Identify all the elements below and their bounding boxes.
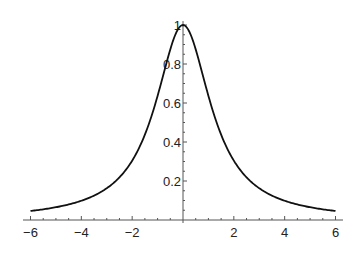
x-tick-label: 4	[281, 225, 288, 240]
x-tick-label: 6	[332, 225, 339, 240]
x-tick-label: −4	[74, 225, 89, 240]
x-tick-labels: −6−4−2246	[23, 225, 339, 240]
y-tick-label: 0.2	[163, 174, 181, 189]
y-tick-label: 0.6	[163, 96, 181, 111]
tick-marks	[31, 25, 336, 220]
y-tick-label: 0.4	[163, 135, 181, 150]
x-tick-label: −2	[125, 225, 140, 240]
x-tick-label: 2	[230, 225, 237, 240]
x-tick-label: −6	[23, 225, 38, 240]
chart: −6−4−2246 0.20.40.60.81	[0, 0, 364, 259]
